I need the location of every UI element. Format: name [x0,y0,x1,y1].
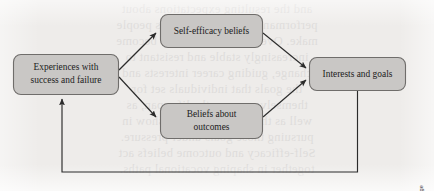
figure-container: and the resulting expectations about per… [0,0,434,191]
node-experiences-label-line2: success and failure [31,75,102,85]
arrow-beliefs-outcomes-to-interests-goals [263,80,306,117]
arrow-experiences-to-beliefs-outcomes [119,77,156,117]
connector-group [62,33,358,172]
node-experiences-label-line1: Experiences with [34,62,99,72]
node-beliefs-about-outcomes-label-line1: Beliefs about [187,109,237,119]
node-experiences[interactable]: Experiences with success and failure [14,55,119,95]
node-beliefs-about-outcomes[interactable]: Beliefs about outcomes [161,104,263,139]
node-self-efficacy-label: Self-efficacy beliefs [174,26,250,36]
node-interests-and-goals[interactable]: Interests and goals [310,58,406,91]
copyright-notice: © 2019 Cengage [418,185,424,191]
node-interests-and-goals-label: Interests and goals [323,69,393,79]
flow-diagram: Experiences with success and failure Sel… [0,0,434,191]
arrow-experiences-to-self-efficacy [119,33,156,70]
arrow-self-efficacy-to-interests-goals [263,33,306,68]
node-beliefs-about-outcomes-label-line2: outcomes [194,122,230,132]
node-self-efficacy[interactable]: Self-efficacy beliefs [161,15,263,48]
